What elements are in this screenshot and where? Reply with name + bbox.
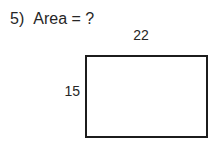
problem-question: Area = ? xyxy=(33,10,94,27)
rectangle-height-label: 15 xyxy=(56,83,80,100)
rectangle-shape xyxy=(85,55,208,138)
worksheet-page: 5)Area = ? 22 15 xyxy=(0,0,215,144)
problem-line: 5)Area = ? xyxy=(10,9,94,28)
rectangle-width-label: 22 xyxy=(85,27,197,44)
problem-number: 5) xyxy=(10,10,24,27)
